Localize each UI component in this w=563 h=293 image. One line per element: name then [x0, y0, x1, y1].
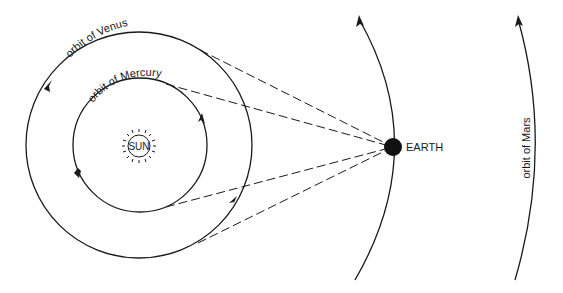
sun-label: SUN [128, 141, 149, 152]
venus-orbit-label: orbit of Venus [63, 16, 129, 60]
mars-orbit-arrow-icon [515, 15, 523, 27]
earth-icon [384, 138, 402, 156]
orbit-diagram: SUN EARTH orbit of Venus orbit of Mercur… [0, 0, 563, 293]
mercury-orbit-label-text: orbit of Mercury [85, 66, 163, 104]
mercury-orbit-arrow-lower-icon [74, 168, 81, 178]
venus-orbit-arrow-lower-icon [229, 196, 237, 207]
sight-line-mercury-lower [166, 147, 393, 207]
venus-orbit-label-text: orbit of Venus [63, 16, 129, 60]
sight-line-venus-upper [200, 50, 393, 147]
mercury-orbit-label: orbit of Mercury [85, 66, 163, 104]
earth-label: EARTH [406, 141, 443, 153]
mars-orbit-label: orbit of Mars [520, 117, 532, 179]
sight-line-venus-lower [198, 147, 393, 243]
earth-orbit-arrow-icon [356, 15, 364, 27]
